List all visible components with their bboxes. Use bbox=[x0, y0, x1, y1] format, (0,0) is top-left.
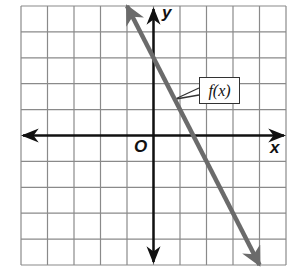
origin-label: O bbox=[134, 137, 147, 157]
y-axis-label: y bbox=[162, 3, 171, 23]
function-label-box: f(x) bbox=[199, 77, 240, 104]
x-axis-label: x bbox=[270, 138, 279, 158]
function-label: f(x) bbox=[208, 82, 230, 100]
